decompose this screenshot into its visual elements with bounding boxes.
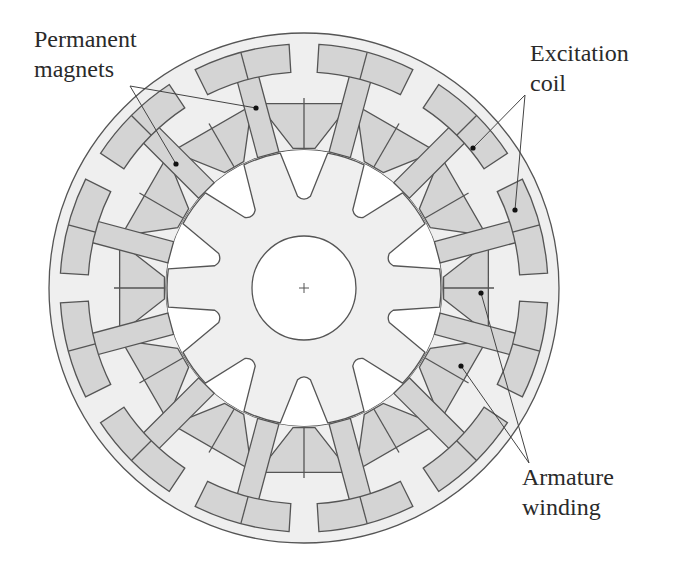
pm-leader-2-dot bbox=[173, 161, 178, 166]
label-excitation-coil: Excitation coil bbox=[530, 38, 629, 98]
label-armature-winding: Armature winding bbox=[522, 462, 614, 522]
aw-leader-1-dot bbox=[478, 290, 483, 295]
aw-leader-2-dot bbox=[458, 363, 463, 368]
label-armature-winding-line2: winding bbox=[522, 492, 614, 522]
pm-leader-1-dot bbox=[253, 105, 258, 110]
label-permanent-magnets: Permanent magnets bbox=[34, 24, 137, 84]
label-excitation-coil-line2: coil bbox=[530, 68, 629, 98]
shaft bbox=[252, 236, 356, 340]
label-excitation-coil-line1: Excitation bbox=[530, 38, 629, 68]
ec-leader-1-dot bbox=[470, 145, 475, 150]
ec-leader-2-dot bbox=[512, 207, 517, 212]
label-permanent-magnets-line1: Permanent bbox=[34, 24, 137, 54]
label-armature-winding-line1: Armature bbox=[522, 462, 614, 492]
label-permanent-magnets-line2: magnets bbox=[34, 54, 137, 84]
